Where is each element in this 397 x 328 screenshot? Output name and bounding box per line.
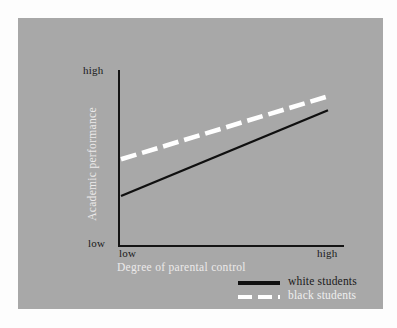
chart-legend: white students black students [238,276,388,304]
chart-figure: high low low high Degree of parental con… [0,0,397,328]
series-line-black-students [121,96,328,159]
x-axis-line [118,245,344,247]
x-axis-tick-high: high [317,247,337,259]
legend-label-white-students: white students [288,275,357,287]
series-line-white-students [121,110,328,196]
legend-item-black-students: black students [238,290,388,304]
y-axis-tick-high: high [83,64,103,76]
legend-swatch-solid-line-icon [238,281,280,285]
chart-panel: high low low high Degree of parental con… [18,18,383,309]
legend-label-black-students: black students [288,289,356,301]
y-axis-line [118,70,120,247]
y-axis-title: Academic performance [86,84,98,244]
x-axis-tick-low: low [119,247,136,259]
x-axis-title: Degree of parental control [117,261,246,273]
legend-item-white-students: white students [238,276,388,290]
legend-swatch-dashed-line-icon [238,295,280,299]
